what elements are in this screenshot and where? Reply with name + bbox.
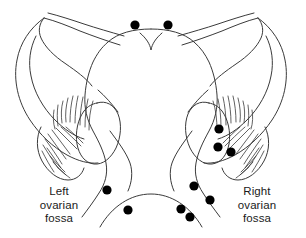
marker-right-ovary-3 bbox=[226, 147, 235, 156]
marker-left-floor-1 bbox=[102, 185, 111, 194]
marker-right-ovary-2 bbox=[213, 142, 222, 151]
ovarian-fossa-diagram: Left ovarian fossa Right ovarian fossa bbox=[0, 0, 306, 238]
marker-right-floor-1 bbox=[189, 181, 198, 190]
marker-fundus-2 bbox=[163, 20, 172, 29]
label-right-line-2: ovarian bbox=[214, 199, 300, 213]
marker-left-floor-2 bbox=[123, 205, 132, 214]
marker-right-floor-3 bbox=[176, 204, 185, 213]
label-right-line-1: Right bbox=[214, 185, 300, 199]
label-left-line-2: ovarian bbox=[16, 199, 102, 213]
label-left-line-3: fossa bbox=[16, 212, 102, 226]
marker-right-ovary-1 bbox=[214, 124, 223, 133]
label-left-line-1: Left bbox=[16, 185, 102, 199]
label-left-ovarian-fossa: Left ovarian fossa bbox=[16, 185, 102, 226]
marker-fundus-1 bbox=[130, 20, 139, 29]
label-right-line-3: fossa bbox=[214, 212, 300, 226]
label-right-ovarian-fossa: Right ovarian fossa bbox=[214, 185, 300, 226]
marker-right-floor-4 bbox=[185, 212, 194, 221]
